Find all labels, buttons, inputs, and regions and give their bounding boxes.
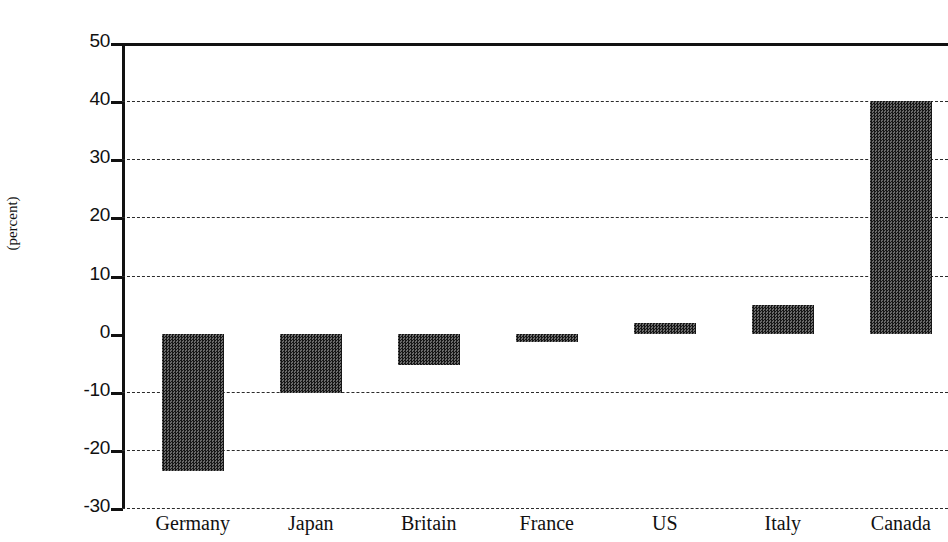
y-axis-tick-label: 0 [50, 321, 110, 343]
y-axis-tick-label: 10 [50, 263, 110, 285]
y-axis-tick-label: 30 [50, 146, 110, 168]
bar-us [634, 323, 697, 333]
y-axis-tick-label: 20 [50, 204, 110, 226]
bar-chart-figure: (percent) 50403020100-10-20-30 GermanyJa… [0, 0, 948, 542]
gridline [122, 159, 948, 160]
x-axis-label-us: US [606, 512, 724, 535]
bar-britain [398, 334, 461, 365]
x-axis-label-canada: Canada [842, 512, 948, 535]
x-axis-label-britain: Britain [370, 512, 488, 535]
x-axis-label-germany: Germany [134, 512, 252, 535]
y-axis-tick-label: 50 [50, 30, 110, 52]
bar-germany [162, 334, 225, 471]
y-axis-title: (percent) [4, 174, 21, 274]
bar-canada [870, 101, 933, 334]
gridline [122, 392, 948, 393]
y-axis-tick-label: -30 [50, 495, 110, 517]
y-axis-tick-label: -10 [50, 379, 110, 401]
bar-italy [752, 305, 815, 333]
bar-japan [280, 334, 343, 394]
bar-france [516, 334, 579, 343]
y-axis-tick-label: -20 [50, 437, 110, 459]
zero-baseline [122, 43, 948, 46]
gridline [122, 276, 948, 277]
x-axis-label-italy: Italy [724, 512, 842, 535]
gridline [122, 508, 948, 509]
x-axis-label-france: France [488, 512, 606, 535]
gridline [122, 450, 948, 451]
gridline [122, 217, 948, 218]
x-axis-label-japan: Japan [252, 512, 370, 535]
y-axis-tick-label: 40 [50, 88, 110, 110]
plot-area [122, 43, 948, 508]
gridline [122, 101, 948, 102]
